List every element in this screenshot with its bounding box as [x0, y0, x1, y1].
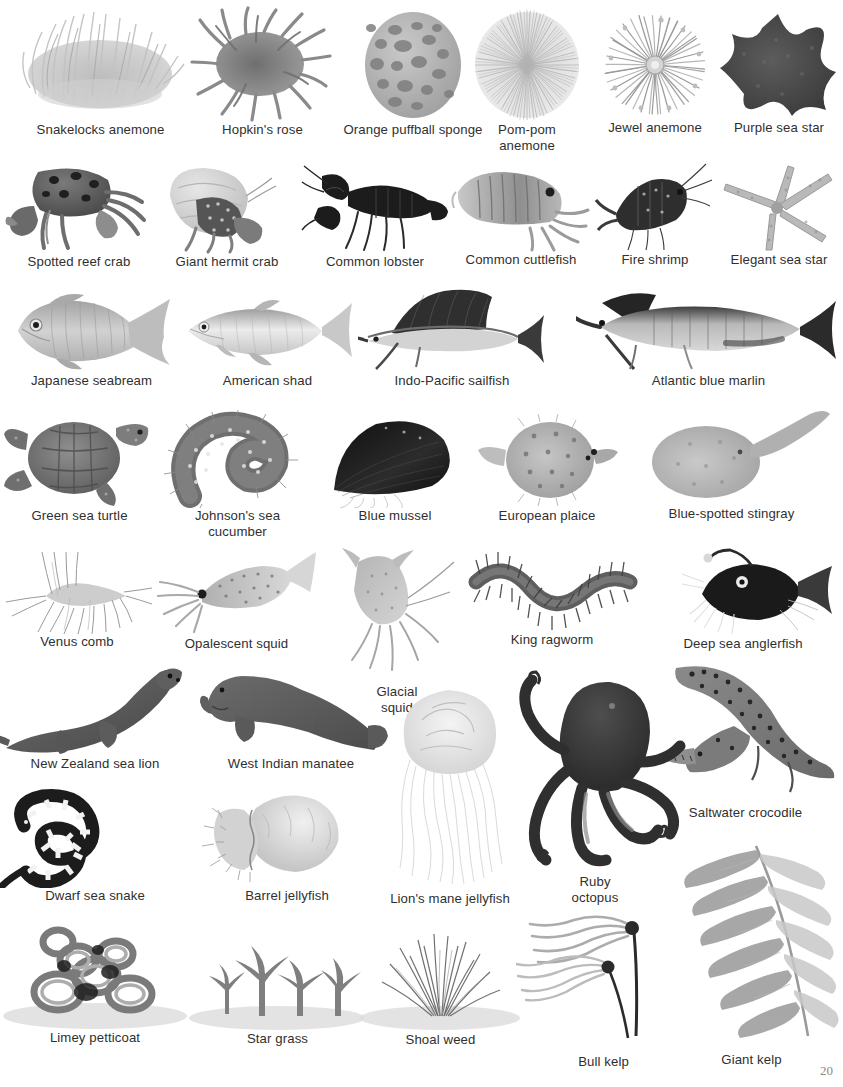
specimen-label: Giant kelp: [660, 1052, 843, 1068]
specimen-blue-spotted-stingray[interactable]: Blue-spotted stingray: [624, 408, 839, 522]
specimen-label: European plaice: [472, 508, 622, 524]
giant-hermit-crab-illustration: [152, 162, 302, 254]
barrel-jellyfish-illustration: [192, 784, 382, 888]
blue-mussel-illustration: [320, 414, 470, 508]
specimen-label: Japanese seabream: [4, 373, 179, 389]
specimen-label: Indo-Pacific sailfish: [358, 373, 546, 389]
new-zealand-sea-lion-illustration: [0, 664, 190, 756]
opalescent-squid-illustration: [154, 548, 319, 636]
specimen-label: Limey petticoat: [0, 1030, 190, 1046]
specimen-japanese-seabream[interactable]: Japanese seabream: [4, 289, 179, 389]
specimen-label: Purple sea star: [718, 120, 840, 136]
specimen-common-cuttlefish[interactable]: Common cuttlefish: [450, 164, 592, 268]
dwarf-sea-snake-illustration: [0, 788, 190, 888]
west-indian-manatee-illustration: [192, 668, 390, 756]
specimen-label: Jewel anemone: [595, 120, 715, 136]
specimen-elegant-sea-star[interactable]: Elegant sea star: [718, 160, 840, 268]
specimen-hopkins-rose[interactable]: Hopkin's rose: [190, 6, 335, 138]
row-plants-algae: Limey petticoat Star grass: [0, 920, 843, 1080]
specimen-pom-pom-anemone[interactable]: Pom-pom anemone: [467, 8, 587, 154]
specimen-label: Blue-spotted stingray: [624, 506, 839, 522]
specimen-label: Johnson's sea cucumber: [160, 508, 315, 540]
specimen-label: Star grass: [185, 1031, 370, 1047]
common-cuttlefish-illustration: [450, 164, 592, 252]
indo-pacific-sailfish-illustration: [358, 285, 546, 373]
specimen-label: Pom-pom anemone: [467, 122, 587, 154]
specimen-indo-pacific-sailfish[interactable]: Indo-Pacific sailfish: [358, 285, 546, 389]
johnsons-sea-cucumber-illustration: [160, 410, 315, 508]
specimen-american-shad[interactable]: American shad: [180, 295, 355, 389]
specimen-atlantic-blue-marlin[interactable]: Atlantic blue marlin: [576, 287, 841, 389]
row-crustaceans: Spotted reef crab: [0, 160, 843, 280]
common-lobster-illustration: [300, 162, 450, 254]
star-grass-illustration: [185, 936, 370, 1031]
specimen-label: King ragworm: [462, 632, 642, 648]
specimen-star-grass[interactable]: Star grass: [185, 936, 370, 1047]
blue-spotted-stingray-illustration: [624, 408, 839, 506]
specimen-deep-sea-anglerfish[interactable]: Deep sea anglerfish: [648, 548, 838, 652]
spotted-reef-crab-illustration: [4, 162, 154, 254]
specimen-label: American shad: [180, 373, 355, 389]
specimen-label: Hopkin's rose: [190, 122, 335, 138]
snakelocks-anemone-illustration: [8, 2, 193, 122]
glacial-squid-illustration: [322, 548, 472, 678]
specimen-label: Fire shrimp: [594, 252, 716, 268]
specimen-label: Green sea turtle: [2, 508, 157, 524]
specimen-label: West Indian manatee: [192, 756, 390, 772]
pom-pom-anemone-illustration: [467, 8, 587, 122]
specimen-fire-shrimp[interactable]: Fire shrimp: [594, 160, 716, 268]
european-plaice-illustration: [472, 414, 622, 508]
specimen-label: Elegant sea star: [718, 252, 840, 268]
specimen-giant-kelp[interactable]: Giant kelp: [660, 840, 843, 1068]
deep-sea-anglerfish-illustration: [648, 548, 838, 636]
specimen-european-plaice[interactable]: European plaice: [472, 414, 622, 524]
specimen-label: Dwarf sea snake: [0, 888, 190, 904]
specimen-green-sea-turtle[interactable]: Green sea turtle: [2, 410, 157, 524]
row-reptiles-molluscs: Green sea turtle: [0, 408, 843, 548]
giant-kelp-illustration: [660, 840, 843, 1040]
elegant-sea-star-illustration: [718, 160, 840, 252]
specimen-snakelocks-anemone[interactable]: Snakelocks anemone: [8, 2, 193, 138]
specimen-limey-petticoat[interactable]: Limey petticoat: [0, 920, 190, 1046]
green-sea-turtle-illustration: [2, 410, 157, 508]
specimen-venus-comb[interactable]: Venus comb: [2, 550, 152, 650]
shoal-weed-illustration: [348, 924, 533, 1032]
jewel-anemone-illustration: [595, 10, 715, 120]
atlantic-blue-marlin-illustration: [576, 287, 841, 373]
specimen-blue-mussel[interactable]: Blue mussel: [320, 414, 470, 524]
specimen-dwarf-sea-snake[interactable]: Dwarf sea snake: [0, 788, 190, 904]
specimen-label: Venus comb: [2, 634, 152, 650]
specimen-jewel-anemone[interactable]: Jewel anemone: [595, 10, 715, 136]
hopkins-rose-illustration: [190, 6, 335, 122]
specimen-opalescent-squid[interactable]: Opalescent squid: [154, 548, 319, 652]
specimen-spotted-reef-crab[interactable]: Spotted reef crab: [4, 162, 154, 270]
specimen-king-ragworm[interactable]: King ragworm: [462, 552, 642, 648]
specimen-label: Blue mussel: [320, 508, 470, 524]
purple-sea-star-illustration: [718, 10, 840, 120]
specimen-label: Common cuttlefish: [450, 252, 592, 268]
limey-petticoat-illustration: [0, 920, 190, 1030]
specimen-purple-sea-star[interactable]: Purple sea star: [718, 10, 840, 136]
american-shad-illustration: [180, 295, 355, 373]
specimen-barrel-jellyfish[interactable]: Barrel jellyfish: [192, 784, 382, 904]
page-number: 20: [820, 1063, 833, 1079]
specimen-label: Opalescent squid: [154, 636, 319, 652]
specimen-giant-hermit-crab[interactable]: Giant hermit crab: [152, 162, 302, 270]
specimen-west-indian-manatee[interactable]: West Indian manatee: [192, 668, 390, 772]
row-fish: Japanese seabream: [0, 285, 843, 395]
specimen-label: Barrel jellyfish: [192, 888, 382, 904]
specimen-johnsons-sea-cucumber[interactable]: Johnson's sea cucumber: [160, 410, 315, 540]
row-cephalopods-worms: Venus comb: [0, 548, 843, 668]
specimen-label: Snakelocks anemone: [8, 122, 193, 138]
specimen-label: Common lobster: [300, 254, 450, 270]
japanese-seabream-illustration: [4, 289, 179, 373]
row-invertebrates-1: Snakelocks anemone: [0, 0, 843, 160]
specimen-shoal-weed[interactable]: Shoal weed: [348, 924, 533, 1048]
venus-comb-illustration: [2, 550, 152, 634]
specimen-label: Shoal weed: [348, 1032, 533, 1048]
king-ragworm-illustration: [462, 552, 642, 632]
specimen-label: Deep sea anglerfish: [648, 636, 838, 652]
specimen-new-zealand-sea-lion[interactable]: New Zealand sea lion: [0, 664, 190, 772]
specimen-common-lobster[interactable]: Common lobster: [300, 162, 450, 270]
ocean-life-plate: Snakelocks anemone: [0, 0, 843, 1087]
